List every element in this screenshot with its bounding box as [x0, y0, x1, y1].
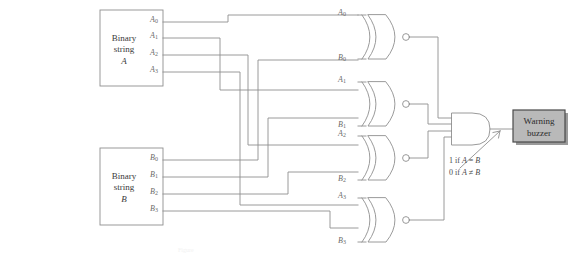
port-label-b3: B3 [150, 204, 158, 214]
xnor-0-output-wire [410, 37, 453, 118]
wire-a2 [163, 55, 358, 145]
binary-string-a-line2: string [100, 44, 148, 55]
xnor-1-body [368, 82, 395, 126]
port-label-b0: B0 [150, 153, 158, 163]
and-gate-annotation: 1 if A = B 0 if A ≠ B [449, 155, 480, 178]
warning-buzzer-line1: Warning [513, 116, 565, 128]
wire-a0 [163, 15, 358, 22]
gate-0-input-top-label: A0 [338, 8, 346, 18]
xnor-0-bubble [403, 34, 410, 41]
binary-string-a-line3: A [121, 56, 127, 66]
port-label-a0: A0 [150, 15, 158, 25]
binary-string-b-line1: Binary [100, 171, 148, 182]
warning-buzzer-line2: buzzer [513, 128, 565, 140]
xnor-1-inner-arc [362, 82, 370, 126]
xnor-3-input-stubs [358, 198, 366, 242]
gate-1-input-top-label: A1 [338, 75, 346, 85]
gate-0-input-bottom-label: B0 [338, 53, 346, 63]
port-label-b2: B2 [150, 187, 158, 197]
xnor-2-input-stubs [358, 136, 366, 180]
port-label-a1: A1 [150, 31, 158, 41]
warning-buzzer-label: Warning buzzer [513, 116, 565, 139]
port-label-b1: B1 [150, 170, 158, 180]
xnor-3-inner-arc [362, 198, 370, 242]
figure-caption: Figure [178, 247, 194, 253]
port-label-a2: A2 [150, 48, 158, 58]
binary-string-a-label: Binary string A [100, 33, 148, 67]
xnor-2-body [368, 136, 395, 180]
wire-a3 [163, 72, 358, 205]
wire-b3 [163, 211, 358, 228]
binary-string-b-line2: string [100, 182, 148, 193]
xnor-0-inner-arc [362, 15, 370, 59]
binary-string-b-line3: B [121, 194, 127, 204]
annotation-line-notequal: 0 if A ≠ B [449, 167, 480, 179]
xnor-0-body [368, 15, 395, 59]
gate-3-input-bottom-label: B3 [338, 236, 346, 246]
xnor-2-output-wire [410, 131, 453, 158]
binary-string-b-label: Binary string B [100, 171, 148, 205]
gate-3-input-top-label: A3 [338, 191, 346, 201]
xnor-0-input-stubs [358, 15, 366, 59]
gate-2-input-bottom-label: B2 [338, 174, 346, 184]
xnor-3-body [368, 198, 395, 242]
wire-b2 [163, 172, 358, 194]
wire-a1 [163, 38, 358, 90]
gate-2-input-top-label: A2 [338, 129, 346, 139]
xnor-3-output-wire [410, 137, 453, 220]
annotation-line-equal: 1 if A = B [449, 155, 480, 167]
xnor-3-bubble [403, 217, 410, 224]
binary-string-a-line1: Binary [100, 33, 148, 44]
and-gate-body [452, 113, 490, 145]
xnor-2-inner-arc [362, 136, 370, 180]
port-label-a3: A3 [150, 65, 158, 75]
xnor-1-bubble [403, 101, 410, 108]
xnor-2-bubble [403, 155, 410, 162]
circuit-wiring-svg [0, 0, 576, 256]
wire-b1 [163, 118, 358, 177]
xnor-1-output-wire [410, 104, 453, 124]
wire-group [100, 10, 568, 242]
xnor-1-input-stubs [358, 82, 366, 126]
circuit-diagram: Binary string A Binary string B A0 A1 A2… [0, 0, 576, 256]
